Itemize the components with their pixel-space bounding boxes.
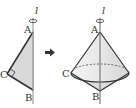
right-double-cone-figure: l A C B [62,5,129,104]
vertex-label-b-left: B [25,92,32,103]
vertex-label-a-right: A [90,24,99,35]
left-triangle-figure: l A C B [0,5,38,104]
vertex-label-c-left: C [0,69,8,80]
vertex-label-c-right: C [62,68,70,79]
vertex-label-a-left: A [23,24,32,35]
transform-arrow [45,49,55,57]
right-arrow-icon [45,49,55,57]
diagram-canvas: l A C B l A C B [0,0,136,108]
vertex-label-b-right: B [92,91,99,102]
axis-label-left: l [35,5,38,16]
axis-label-right: l [102,5,105,16]
